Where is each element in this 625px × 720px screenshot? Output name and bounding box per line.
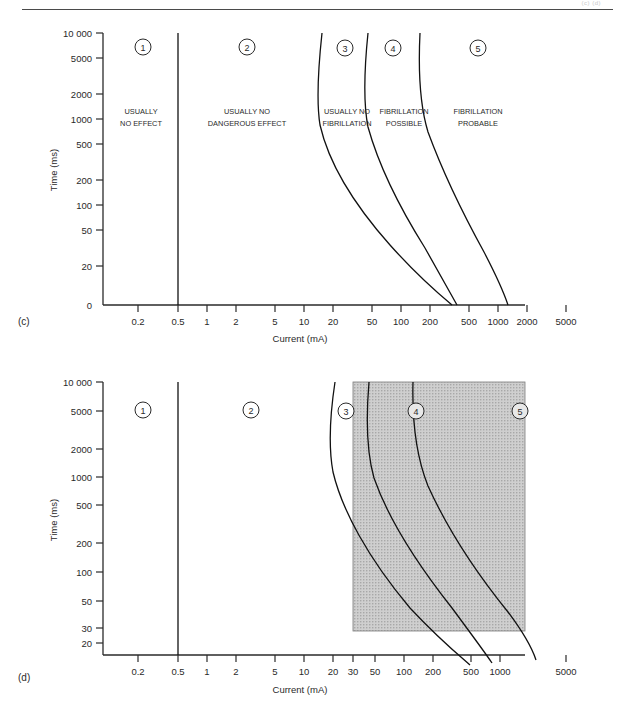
y-tick-label: 30	[81, 623, 92, 634]
figure-panel-d: (d) 10 000 5000 2000 1000 500	[0, 360, 625, 720]
y-tick-label: 50	[81, 596, 92, 607]
zone-label-line: DANGEROUS EFFECT	[208, 119, 287, 128]
zone-marker-label: 4	[390, 44, 395, 54]
zone-label-line: FIBRILLATION	[453, 107, 502, 116]
zone-markers-c: 1 2 3 4 5	[135, 39, 486, 56]
x-tick-label: 500	[463, 666, 479, 677]
x-tick-label: 5	[272, 316, 277, 327]
x-tick-label: 2000	[516, 316, 537, 327]
zone-marker-2: 2	[239, 39, 255, 55]
boundary-curve-zone2-zone3-c	[318, 33, 452, 305]
zone-label-5: FIBRILLATION PROBABLE	[453, 107, 502, 128]
zone-marker-label: 1	[140, 43, 145, 53]
x-tick-label: 5	[272, 666, 277, 677]
zone-label-3: USUALLY NO FIBRILLATION	[322, 107, 371, 128]
x-tick-label: 0.2	[131, 666, 144, 677]
y-tick-label: 20	[81, 638, 92, 649]
zone-label-line: PROBABLE	[458, 119, 498, 128]
x-tick-label: 200	[425, 666, 441, 677]
x-axis-title-c: Current (mA)	[273, 333, 328, 344]
zone-label-1: USUALLY NO EFFECT	[120, 107, 162, 128]
x-axis-ticks-c: 0.2 0.5 1 2 5 10 20 50 100 200 500 1000 …	[131, 305, 576, 327]
chart-c: 10 000 5000 2000 1000 500 200 100 50 20 …	[0, 0, 625, 360]
x-tick-label: 0.5	[171, 666, 184, 677]
x-tick-label: 0.5	[171, 316, 184, 327]
y-axis-title-c: Time (ms)	[48, 149, 59, 191]
zone-marker-3: 3	[337, 40, 353, 56]
zone-marker-1: 1	[135, 402, 151, 418]
zone-label-line: NO EFFECT	[120, 119, 162, 128]
x-tick-label: 10	[299, 316, 310, 327]
x-axis-ticks-d: 0.2 0.5 1 2 5 10 20 30 50 100 200 500 10…	[131, 655, 576, 677]
zone-label-line: POSSIBLE	[386, 119, 423, 128]
y-tick-label: 20	[81, 261, 92, 272]
y-tick-label: 10 000	[63, 377, 92, 388]
x-tick-label: 0.2	[131, 316, 144, 327]
y-tick-label: 500	[76, 500, 92, 511]
x-tick-label: 100	[393, 316, 409, 327]
axis-lines-c	[103, 33, 525, 305]
y-tick-label: 5000	[71, 406, 92, 417]
y-axis-title-d: Time (ms)	[48, 499, 59, 541]
y-tick-label: 5000	[71, 53, 92, 64]
zone-label-line: USUALLY NO	[224, 107, 270, 116]
boundary-curve-zone4-zone5-c	[419, 33, 508, 305]
zone-marker-4: 4	[408, 403, 424, 419]
chart-d: 10 000 5000 2000 1000 500 200 100 50 30 …	[0, 360, 625, 720]
y-axis-ticks-c: 10 000 5000 2000 1000 500 200 100 50 20 …	[63, 28, 103, 311]
zone-marker-4: 4	[385, 40, 401, 56]
zone-marker-5: 5	[512, 403, 528, 419]
zone-label-line: FIBRILLATION	[322, 119, 371, 128]
zone-label-2: USUALLY NO DANGEROUS EFFECT	[208, 107, 287, 128]
x-tick-label: 5000	[555, 316, 576, 327]
y-tick-label: 100	[76, 567, 92, 578]
x-tick-label: 1	[204, 316, 209, 327]
shaded-region-d	[353, 382, 525, 631]
y-tick-label: 1000	[71, 472, 92, 483]
zone-marker-label: 5	[517, 407, 522, 417]
y-tick-label: 2000	[71, 444, 92, 455]
x-tick-label: 5000	[555, 666, 576, 677]
x-tick-label: 2	[233, 316, 238, 327]
x-tick-label: 20	[328, 316, 339, 327]
x-tick-label: 200	[422, 316, 438, 327]
figure-panel-c: (c) 10 000 5000 2000 1000 500 200 100 50	[0, 0, 625, 360]
zone-marker-3: 3	[338, 403, 354, 419]
x-tick-label: 2	[233, 666, 238, 677]
x-tick-label: 1000	[487, 316, 508, 327]
x-tick-label: 1	[204, 666, 209, 677]
zone-marker-5: 5	[470, 40, 486, 56]
y-tick-label: 2000	[71, 89, 92, 100]
zone-marker-label: 3	[342, 44, 347, 54]
zone-label-line: USUALLY	[124, 107, 157, 116]
y-tick-label: 200	[76, 175, 92, 186]
zone-marker-label: 3	[343, 407, 348, 417]
zone-marker-1: 1	[135, 39, 151, 55]
y-tick-label: 200	[76, 538, 92, 549]
x-tick-label: 10	[299, 666, 310, 677]
y-tick-label: 500	[76, 139, 92, 150]
x-tick-label: 20	[328, 666, 339, 677]
x-tick-label: 50	[370, 666, 381, 677]
y-tick-label: 1000	[71, 114, 92, 125]
zone-marker-label: 4	[413, 407, 418, 417]
zone-label-4: FIBRILLATION POSSIBLE	[379, 107, 428, 128]
x-tick-label: 30	[348, 666, 359, 677]
x-tick-label: 50	[367, 316, 378, 327]
zone-marker-2: 2	[243, 402, 259, 418]
x-axis-title-d: Current (mA)	[273, 684, 328, 695]
zone-marker-label: 2	[248, 406, 253, 416]
y-tick-label: 50	[81, 225, 92, 236]
x-tick-label: 500	[461, 316, 477, 327]
zone-marker-label: 1	[140, 406, 145, 416]
x-tick-label: 100	[396, 666, 412, 677]
x-tick-label: 1000	[489, 666, 510, 677]
zone-marker-label: 5	[475, 44, 480, 54]
zone-label-line: FIBRILLATION	[379, 107, 428, 116]
zone-marker-label: 2	[244, 43, 249, 53]
y-axis-ticks-d: 10 000 5000 2000 1000 500 200 100 50 30 …	[63, 377, 103, 649]
y-tick-label: 100	[76, 200, 92, 211]
y-tick-label-origin: 0	[87, 300, 92, 311]
zone-label-line: USUALLY NO	[324, 107, 370, 116]
y-tick-label: 10 000	[63, 28, 92, 39]
